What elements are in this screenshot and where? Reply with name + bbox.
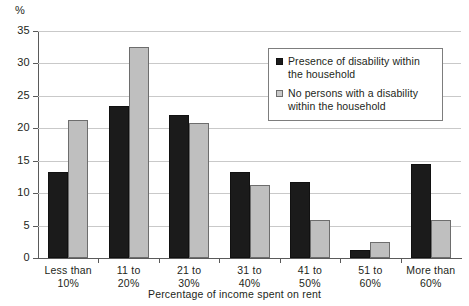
bar: [250, 185, 270, 258]
legend-item-label-line1: Presence of disability within: [288, 55, 420, 67]
legend-item-label-line2: within the household: [288, 100, 386, 112]
x-axis-tick-mark: [159, 259, 160, 263]
bar: [411, 164, 431, 258]
x-axis-tick-label-line1: 21 to: [177, 264, 201, 276]
bar: [189, 123, 209, 258]
x-axis-tick-mark: [98, 259, 99, 263]
y-axis-tick-label: 35: [4, 25, 30, 36]
x-axis-tick-label: 51 to60%: [340, 264, 400, 290]
bar: [431, 220, 451, 258]
y-axis-tick-mark: [33, 258, 38, 259]
bar: [230, 172, 250, 258]
legend-item-label-line1: No persons with a disability: [288, 87, 418, 99]
bar: [350, 250, 370, 258]
x-axis-tick-label: 41 to50%: [280, 264, 340, 290]
bar: [48, 172, 68, 258]
chart-legend: Presence of disability within the househ…: [268, 48, 443, 121]
x-axis-tick-label-line1: 41 to: [298, 264, 322, 276]
bar: [290, 182, 310, 258]
x-axis-tick-mark: [401, 259, 402, 263]
y-axis-tick-label: 10: [4, 187, 30, 198]
x-axis-tick-label: Less than10%: [38, 264, 98, 290]
x-axis-tick-mark: [280, 259, 281, 263]
x-axis-tick-label: 31 to40%: [219, 264, 279, 290]
y-axis-tick-label: 5: [4, 220, 30, 231]
y-axis-tick-label: 15: [4, 155, 30, 166]
x-axis-tick-label-line1: More than: [406, 264, 455, 276]
x-axis-tick-label-line1: 11 to: [117, 264, 141, 276]
x-axis-tick-label: 11 to20%: [98, 264, 158, 290]
x-axis-tick-label-line1: Less than: [45, 264, 92, 276]
legend-item-label: No persons with a disability within the …: [288, 87, 435, 113]
legend-item-presence-of-disability: Presence of disability within the househ…: [276, 55, 435, 81]
y-axis-tick-label: 0: [4, 252, 30, 263]
legend-item-no-persons-with-disability: No persons with a disability within the …: [276, 87, 435, 113]
gridline: [38, 128, 461, 129]
bar: [370, 242, 390, 258]
y-axis-tick-label: 25: [4, 90, 30, 101]
bar: [129, 47, 149, 258]
x-axis-tick-label-line1: 51 to: [358, 264, 382, 276]
x-axis-line: [38, 258, 462, 259]
y-axis-tick-label: 20: [4, 122, 30, 133]
dark-square-swatch-icon: [276, 58, 283, 65]
bar: [169, 115, 189, 258]
y-axis-unit-label: %: [15, 4, 25, 16]
light-square-swatch-icon: [276, 90, 283, 97]
x-axis-tick-label-line1: 31 to: [237, 264, 261, 276]
legend-item-label: Presence of disability within the househ…: [288, 55, 435, 81]
x-axis-tick-mark: [340, 259, 341, 263]
gridline: [38, 161, 461, 162]
x-axis-tick-label: 21 to30%: [159, 264, 219, 290]
gridline: [38, 31, 461, 32]
x-axis-tick-mark: [219, 259, 220, 263]
y-axis-tick-label: 30: [4, 57, 30, 68]
bar: [68, 120, 88, 258]
bar-chart: % 05101520253035 Less than10%11 to20%21 …: [0, 0, 469, 306]
bar: [310, 220, 330, 258]
bar: [109, 106, 129, 258]
legend-item-label-line2: the household: [288, 68, 355, 80]
x-axis-tick-label: More than60%: [401, 264, 461, 290]
x-axis-title: Percentage of income spent on rent: [0, 288, 469, 300]
